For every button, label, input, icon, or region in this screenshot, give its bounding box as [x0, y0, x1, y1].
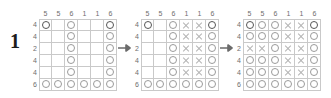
- cell-blocked[interactable]: [295, 67, 308, 79]
- cell-blocked[interactable]: [193, 43, 206, 55]
- cell-filled[interactable]: [104, 31, 117, 43]
- cell-blocked[interactable]: [243, 43, 256, 55]
- cell-filled[interactable]: [104, 79, 117, 91]
- cell-filled[interactable]: [39, 79, 52, 91]
- cell-filled[interactable]: [104, 55, 117, 67]
- cell-blocked[interactable]: [193, 67, 206, 79]
- cell-empty[interactable]: [52, 55, 65, 67]
- cell-filled[interactable]: [256, 55, 269, 67]
- cell-filled[interactable]: [193, 79, 206, 91]
- cell-filled[interactable]: [243, 55, 256, 67]
- cell-empty[interactable]: [154, 43, 167, 55]
- cell-empty[interactable]: [78, 67, 91, 79]
- cell-filled[interactable]: [282, 79, 295, 91]
- cell-filled[interactable]: [206, 31, 219, 43]
- cell-blocked[interactable]: [295, 19, 308, 31]
- cell-filled[interactable]: [206, 19, 219, 31]
- cell-filled[interactable]: [104, 67, 117, 79]
- cell-filled[interactable]: [65, 79, 78, 91]
- cell-empty[interactable]: [141, 43, 154, 55]
- cell-filled[interactable]: [308, 31, 321, 43]
- cell-filled[interactable]: [91, 79, 104, 91]
- cell-empty[interactable]: [141, 55, 154, 67]
- cell-filled[interactable]: [65, 67, 78, 79]
- cell-filled[interactable]: [206, 43, 219, 55]
- cell-filled[interactable]: [167, 31, 180, 43]
- cell-empty[interactable]: [91, 19, 104, 31]
- cell-empty[interactable]: [52, 43, 65, 55]
- cell-filled[interactable]: [269, 43, 282, 55]
- cell-filled[interactable]: [167, 19, 180, 31]
- cell-filled[interactable]: [269, 79, 282, 91]
- cell-blocked[interactable]: [193, 55, 206, 67]
- cell-filled[interactable]: [256, 31, 269, 43]
- cell-blocked[interactable]: [295, 43, 308, 55]
- cell-filled[interactable]: [141, 19, 154, 31]
- cell-empty[interactable]: [154, 55, 167, 67]
- cell-blocked[interactable]: [282, 19, 295, 31]
- cell-empty[interactable]: [52, 31, 65, 43]
- cell-blocked[interactable]: [282, 55, 295, 67]
- cell-filled[interactable]: [308, 19, 321, 31]
- cell-filled[interactable]: [52, 79, 65, 91]
- cell-filled[interactable]: [78, 79, 91, 91]
- cell-filled[interactable]: [243, 19, 256, 31]
- cell-filled[interactable]: [295, 79, 308, 91]
- cell-filled[interactable]: [269, 55, 282, 67]
- cell-empty[interactable]: [39, 67, 52, 79]
- cell-blocked[interactable]: [282, 31, 295, 43]
- cell-blocked[interactable]: [180, 31, 193, 43]
- cell-blocked[interactable]: [180, 55, 193, 67]
- cell-empty[interactable]: [52, 19, 65, 31]
- cell-empty[interactable]: [78, 31, 91, 43]
- cell-filled[interactable]: [243, 79, 256, 91]
- cell-filled[interactable]: [104, 43, 117, 55]
- cell-filled[interactable]: [243, 31, 256, 43]
- cell-filled[interactable]: [65, 55, 78, 67]
- cell-filled[interactable]: [65, 31, 78, 43]
- cell-filled[interactable]: [308, 79, 321, 91]
- cell-filled[interactable]: [167, 67, 180, 79]
- cell-empty[interactable]: [91, 31, 104, 43]
- cell-filled[interactable]: [154, 79, 167, 91]
- cell-blocked[interactable]: [180, 67, 193, 79]
- cell-blocked[interactable]: [256, 43, 269, 55]
- cell-filled[interactable]: [167, 79, 180, 91]
- cell-filled[interactable]: [256, 19, 269, 31]
- cell-empty[interactable]: [78, 43, 91, 55]
- cell-filled[interactable]: [206, 79, 219, 91]
- cell-filled[interactable]: [167, 43, 180, 55]
- cell-filled[interactable]: [269, 19, 282, 31]
- cell-filled[interactable]: [308, 43, 321, 55]
- cell-blocked[interactable]: [193, 31, 206, 43]
- cell-filled[interactable]: [308, 55, 321, 67]
- cell-empty[interactable]: [154, 19, 167, 31]
- cell-empty[interactable]: [39, 43, 52, 55]
- cell-filled[interactable]: [269, 67, 282, 79]
- cell-filled[interactable]: [269, 31, 282, 43]
- cell-filled[interactable]: [65, 19, 78, 31]
- cell-filled[interactable]: [206, 67, 219, 79]
- cell-empty[interactable]: [154, 31, 167, 43]
- cell-blocked[interactable]: [282, 43, 295, 55]
- cell-empty[interactable]: [141, 67, 154, 79]
- cell-blocked[interactable]: [180, 43, 193, 55]
- cell-filled[interactable]: [256, 67, 269, 79]
- cell-filled[interactable]: [167, 55, 180, 67]
- cell-filled[interactable]: [308, 67, 321, 79]
- cell-empty[interactable]: [78, 55, 91, 67]
- cell-filled[interactable]: [206, 55, 219, 67]
- cell-empty[interactable]: [141, 31, 154, 43]
- cell-empty[interactable]: [52, 67, 65, 79]
- cell-empty[interactable]: [91, 43, 104, 55]
- cell-empty[interactable]: [39, 31, 52, 43]
- cell-blocked[interactable]: [180, 19, 193, 31]
- cell-filled[interactable]: [65, 43, 78, 55]
- cell-empty[interactable]: [78, 19, 91, 31]
- cell-blocked[interactable]: [282, 67, 295, 79]
- cell-empty[interactable]: [39, 55, 52, 67]
- cell-empty[interactable]: [154, 67, 167, 79]
- cell-filled[interactable]: [243, 67, 256, 79]
- cell-empty[interactable]: [91, 55, 104, 67]
- cell-filled[interactable]: [256, 79, 269, 91]
